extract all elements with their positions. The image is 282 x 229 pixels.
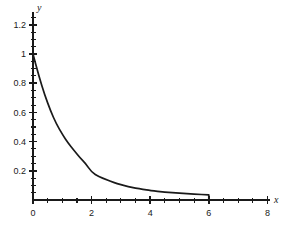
x-tick-label-1: 2 <box>89 208 94 218</box>
x-axis-label: x <box>273 194 279 205</box>
chart-figure: 02468 0.20.40.60.811.2 x y <box>0 0 282 229</box>
axes-group <box>33 12 270 200</box>
y-axis-tick-labels: 0.20.40.60.811.2 <box>13 20 26 176</box>
exponential-decay-plot: 02468 0.20.40.60.811.2 x y <box>0 0 282 229</box>
y-tick-label-5: 1.2 <box>13 20 26 30</box>
x-tick-label-4: 8 <box>265 208 270 218</box>
x-tick-label-2: 4 <box>148 208 153 218</box>
y-tick-label-3: 0.8 <box>13 78 26 88</box>
y-tick-label-2: 0.6 <box>13 108 26 118</box>
y-axis-label: y <box>36 2 42 13</box>
x-axis-tick-labels: 02468 <box>30 208 269 218</box>
x-tick-label-3: 6 <box>206 208 211 218</box>
y-tick-label-0: 0.2 <box>13 166 26 176</box>
data-curve-series-0 <box>33 54 209 200</box>
y-tick-label-4: 1 <box>21 49 26 59</box>
x-tick-label-0: 0 <box>30 208 35 218</box>
y-tick-label-1: 0.4 <box>13 137 26 147</box>
